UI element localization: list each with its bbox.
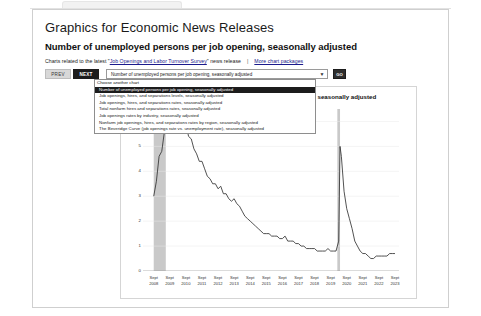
x-axis-labels: Sept2008Sept2009Sept2010Sept2011Sept2012… <box>143 275 399 295</box>
page-title: Graphics for Economic News Releases <box>45 20 274 35</box>
page-content-frame: Graphics for Economic News Releases Numb… <box>32 9 449 308</box>
browser-tab[interactable] <box>62 1 182 8</box>
jolts-release-link[interactable]: Job Openings and Labor Turnover Survey <box>110 58 207 64</box>
y-axis-tick-label: 2 <box>127 219 141 223</box>
related-suffix: " news release <box>207 58 241 64</box>
chart-heading: Number of unemployed persons per job ope… <box>45 41 357 52</box>
chart-line-series <box>154 114 395 259</box>
dropdown-option[interactable]: Nonfarm job openings, hires, and separat… <box>95 120 315 127</box>
dropdown-option[interactable]: Number of unemployed persons per job ope… <box>95 87 315 94</box>
y-axis-tick-label: 0 <box>127 269 141 273</box>
browser-chrome <box>0 0 481 9</box>
chart-select[interactable]: Number of unemployed persons per job ope… <box>106 69 328 79</box>
chart-select-dropdown[interactable]: Choose another chartNumber of unemployed… <box>94 79 316 134</box>
related-release-line: Charts related to the latest "Job Openin… <box>45 58 303 64</box>
y-axis-tick-label: 3 <box>127 194 141 198</box>
next-button[interactable]: NEXT <box>73 69 99 79</box>
dropdown-option[interactable]: Job openings, hires, and separations lev… <box>95 93 315 100</box>
link-separator: | <box>241 58 254 64</box>
dropdown-option[interactable]: Total nonfarm hires and separations rate… <box>95 106 315 113</box>
dropdown-option[interactable]: The Beveridge Curve (job openings rate v… <box>95 126 315 133</box>
chevron-down-icon[interactable]: ▼ <box>318 70 326 78</box>
y-axis-tick-label: 1 <box>127 244 141 248</box>
related-prefix: Charts related to the latest " <box>45 58 110 64</box>
x-axis-tick-label: Sept2023 <box>384 275 406 286</box>
y-axis-tick-label: 5 <box>127 144 141 148</box>
dropdown-option[interactable]: Job openings rates by industry, seasonal… <box>95 113 315 120</box>
go-button[interactable]: GO <box>333 69 346 79</box>
dropdown-option[interactable]: Job openings, hires, and separations rat… <box>95 100 315 107</box>
prev-button[interactable]: PREV <box>45 69 71 79</box>
y-axis-tick-label: 4 <box>127 169 141 173</box>
more-chart-packages-link[interactable]: More chart packages <box>254 58 303 64</box>
dropdown-option[interactable]: Choose another chart <box>95 80 315 87</box>
